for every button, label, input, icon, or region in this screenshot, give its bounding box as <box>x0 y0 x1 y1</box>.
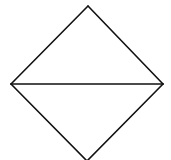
diagram-canvas <box>0 0 171 160</box>
rhombus-shape <box>11 6 163 160</box>
rhombus-diagram <box>0 0 171 160</box>
bottom-right-edge <box>87 84 163 160</box>
bottom-left-edge <box>11 84 87 160</box>
top-left-edge <box>11 6 88 84</box>
top-right-edge <box>88 6 163 84</box>
